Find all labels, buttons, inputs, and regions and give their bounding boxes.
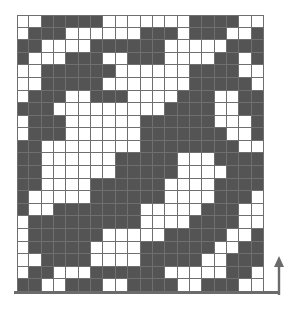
grid-cell: [252, 216, 264, 229]
grid-cell: [153, 242, 165, 255]
grid-cell: [17, 166, 29, 179]
grid-cell: [190, 128, 202, 141]
grid-cell: [29, 204, 41, 217]
up-arrow-icon: [270, 255, 288, 295]
grid-cell: [202, 191, 214, 204]
grid-cell: [239, 216, 251, 229]
grid-cell: [17, 204, 29, 217]
grid-cell: [239, 254, 251, 267]
grid-cell: [178, 216, 190, 229]
grid-cell: [128, 103, 140, 116]
grid-cell: [116, 191, 128, 204]
grid-cell: [103, 40, 115, 53]
grid-cell: [79, 91, 91, 104]
grid-cell: [227, 28, 239, 41]
grid-cell: [178, 53, 190, 66]
grid-cell: [103, 191, 115, 204]
grid-cell: [17, 229, 29, 242]
grid-cell: [178, 128, 190, 141]
grid-cell: [103, 216, 115, 229]
grid-cell: [252, 40, 264, 53]
grid-cell: [128, 229, 140, 242]
grid-cell: [252, 91, 264, 104]
grid-cell: [165, 40, 177, 53]
grid-cell: [29, 179, 41, 192]
grid-cell: [190, 216, 202, 229]
grid-cell: [42, 141, 54, 154]
grid-cell: [116, 103, 128, 116]
grid-cell: [42, 40, 54, 53]
grid-cell: [190, 40, 202, 53]
grid-cell: [54, 216, 66, 229]
grid-cell: [252, 53, 264, 66]
grid-cell: [79, 166, 91, 179]
grid-cell: [66, 40, 78, 53]
grid-cell: [165, 128, 177, 141]
grid-cell: [116, 91, 128, 104]
grid-cell: [103, 65, 115, 78]
grid-cell: [42, 242, 54, 255]
grid-cell: [141, 65, 153, 78]
grid-cell: [91, 254, 103, 267]
grid-cell: [54, 40, 66, 53]
grid-cell: [54, 128, 66, 141]
grid-cell: [116, 153, 128, 166]
grid-cell: [103, 103, 115, 116]
grid-cell: [190, 91, 202, 104]
grid-cell: [190, 28, 202, 41]
grid-cell: [190, 179, 202, 192]
grid-cell: [116, 28, 128, 41]
grid-cell: [178, 191, 190, 204]
grid-cell: [178, 78, 190, 91]
grid-cell: [215, 204, 227, 217]
grid-cell: [227, 229, 239, 242]
grid-cell: [66, 128, 78, 141]
grid-cell: [252, 179, 264, 192]
grid-cell: [42, 116, 54, 129]
grid-cell: [178, 103, 190, 116]
grid-cell: [215, 166, 227, 179]
grid-cell: [215, 116, 227, 129]
grid-cell: [239, 91, 251, 104]
grid-cell: [252, 191, 264, 204]
grid-cell: [103, 166, 115, 179]
grid-cell: [252, 254, 264, 267]
grid-cell: [215, 254, 227, 267]
grid-cell: [165, 116, 177, 129]
grid-cell: [91, 216, 103, 229]
grid-cell: [153, 141, 165, 154]
grid-cell: [215, 242, 227, 255]
grid-cell: [239, 15, 251, 28]
grid-cell: [190, 116, 202, 129]
grid-cell: [141, 128, 153, 141]
grid-cell: [141, 204, 153, 217]
grid-cell: [239, 40, 251, 53]
grid-cell: [103, 141, 115, 154]
grid-cell: [116, 141, 128, 154]
grid-cell: [190, 141, 202, 154]
grid-cell: [54, 179, 66, 192]
grid-cell: [215, 91, 227, 104]
grid-cell: [42, 179, 54, 192]
grid-cell: [29, 65, 41, 78]
grid-cell: [17, 179, 29, 192]
grid-cell: [227, 103, 239, 116]
grid-cell: [202, 242, 214, 255]
grid-cell: [202, 166, 214, 179]
grid-cell: [91, 15, 103, 28]
grid-cell: [17, 91, 29, 104]
grid-cell: [227, 65, 239, 78]
grid-cell: [165, 216, 177, 229]
grid-cell: [42, 254, 54, 267]
grid-cell: [29, 116, 41, 129]
grid-cell: [141, 267, 153, 280]
grid-cell: [215, 229, 227, 242]
grid-cell: [66, 242, 78, 255]
grid-cell: [17, 15, 29, 28]
grid-cell: [178, 40, 190, 53]
grid-cell: [91, 128, 103, 141]
grid-cell: [54, 65, 66, 78]
grid-cell: [153, 78, 165, 91]
grid-cell: [178, 204, 190, 217]
grid-cell: [54, 191, 66, 204]
